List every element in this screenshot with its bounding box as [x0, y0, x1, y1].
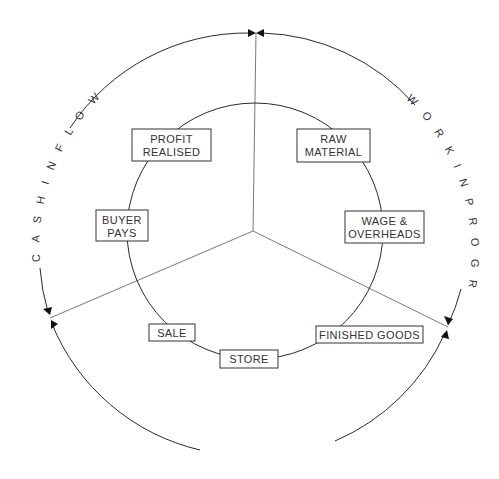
node-label: WAGE &	[362, 215, 408, 227]
spoke-right	[253, 231, 448, 327]
node-label: MATERIAL	[305, 146, 362, 158]
node-store: STORE	[220, 350, 278, 368]
node-sale: SALE	[149, 324, 195, 341]
node-profit-realised: PROFIT REALISED	[132, 129, 211, 161]
outer-arc-finished-goods-right	[335, 333, 445, 441]
working-capital-diagram: W O R K I N P R O G R E S S C A S H I N …	[0, 0, 499, 479]
node-buyer-pays: BUYER PAYS	[96, 210, 148, 241]
arrow-down-icon	[43, 307, 52, 315]
node-label: PROFIT	[150, 133, 193, 145]
node-label: BUYER	[102, 214, 142, 226]
outer-arc-cash-start	[40, 268, 48, 312]
spoke-left	[50, 231, 253, 318]
node-label: STORE	[229, 353, 269, 365]
node-label: OVERHEADS	[348, 228, 421, 240]
arrowheads	[43, 29, 453, 339]
outer-arc-finished-goods-left	[52, 324, 200, 450]
arrow-left-icon	[256, 29, 264, 37]
outer-arc-work-in-progress	[262, 33, 415, 105]
outer-arc-cash-inflow	[70, 33, 250, 128]
spokes	[50, 33, 448, 327]
label-work-in-progress: W O R K I N P R O G R E S S	[0, 0, 482, 301]
label-cash-inflow: C A S H I N F L O W	[29, 87, 104, 262]
node-label: FINISHED GOODS	[319, 329, 420, 341]
node-raw-material: RAW MATERIAL	[297, 129, 370, 162]
node-label: PAYS	[107, 227, 136, 239]
node-label: REALISED	[143, 146, 201, 158]
arrow-up-icon	[51, 320, 58, 329]
node-label: RAW	[320, 133, 347, 145]
spoke-top	[253, 33, 256, 231]
node-label: SALE	[157, 327, 187, 339]
arrow-up-icon	[441, 330, 449, 339]
node-finished-goods: FINISHED GOODS	[316, 326, 423, 343]
node-wage-overheads: WAGE & OVERHEADS	[345, 211, 424, 243]
arrow-right-icon	[248, 29, 256, 37]
